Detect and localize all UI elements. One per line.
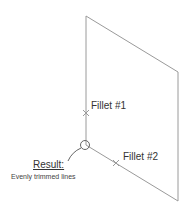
result-title: Result: — [33, 160, 64, 170]
fillet1-label: Fillet #1 — [91, 101, 126, 111]
leader-line — [68, 148, 81, 161]
result-circle — [81, 141, 90, 150]
fillet2-label: Fillet #2 — [123, 152, 158, 162]
result-description: Evenly trimmed lines — [11, 173, 76, 180]
